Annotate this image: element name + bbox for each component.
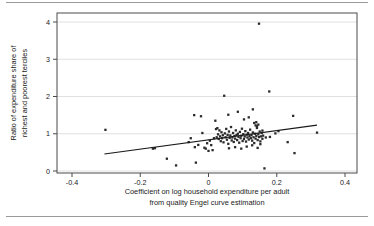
- data-point: [232, 132, 234, 134]
- data-point: [234, 137, 236, 139]
- data-point: [233, 141, 235, 143]
- data-point: [244, 135, 246, 137]
- data-point: [226, 139, 228, 141]
- data-point: [226, 134, 228, 136]
- data-point: [205, 148, 207, 150]
- data-point: [228, 147, 230, 149]
- figure-container: -0.4-0.200.20.4 01234 Coefficient on log…: [0, 0, 374, 226]
- data-point: [250, 137, 252, 139]
- data-point: [316, 131, 318, 133]
- regression-line: [104, 125, 317, 154]
- data-point: [238, 142, 240, 144]
- data-point: [220, 131, 222, 133]
- data-point: [245, 140, 247, 142]
- data-point: [252, 108, 254, 110]
- data-point: [258, 136, 260, 138]
- data-point: [193, 114, 195, 116]
- data-point: [219, 135, 221, 137]
- y-axis-label: Ratio of expenditure share ofrichest and…: [9, 45, 29, 141]
- data-point: [217, 133, 219, 135]
- data-point: [200, 115, 202, 117]
- data-point: [244, 130, 246, 132]
- plot-frame: [57, 13, 357, 173]
- data-point: [235, 129, 237, 131]
- x-axis-title-line: from quality Engel curve estimation: [149, 198, 264, 207]
- data-point: [252, 136, 254, 138]
- data-point: [255, 121, 257, 123]
- data-point: [251, 144, 253, 146]
- data-point: [197, 144, 199, 146]
- data-point: [222, 134, 224, 136]
- data-point: [223, 95, 225, 97]
- data-point: [104, 129, 106, 131]
- gridlines: [57, 22, 357, 171]
- data-point: [237, 111, 239, 113]
- data-point: [243, 118, 245, 120]
- data-point: [214, 120, 216, 122]
- data-point: [265, 136, 267, 138]
- data-point: [225, 128, 227, 130]
- data-point: [253, 122, 255, 124]
- data-point: [211, 149, 213, 151]
- data-point: [227, 143, 229, 145]
- data-point: [256, 139, 258, 141]
- x-axis-ticks: -0.4-0.200.20.4: [66, 173, 350, 187]
- data-point: [228, 130, 230, 132]
- data-point: [269, 136, 271, 138]
- data-point: [222, 141, 224, 143]
- data-point: [190, 137, 192, 139]
- fit-line: [104, 125, 317, 154]
- data-point: [259, 143, 261, 145]
- data-point: [220, 140, 222, 142]
- x-axis-label: Coefficient on log household expenditure…: [125, 187, 290, 207]
- data-points: [104, 23, 318, 170]
- data-point: [206, 142, 208, 144]
- data-point: [256, 147, 258, 149]
- data-point: [175, 164, 177, 166]
- data-point: [274, 132, 276, 134]
- data-point: [210, 144, 212, 146]
- x-tick-label: 0.2: [272, 178, 282, 187]
- data-point: [240, 148, 242, 150]
- data-point: [224, 132, 226, 134]
- data-point: [231, 139, 233, 141]
- data-point: [237, 133, 239, 135]
- data-point: [257, 123, 259, 125]
- data-point: [254, 124, 256, 126]
- data-point: [254, 137, 256, 139]
- data-point: [248, 116, 250, 118]
- y-axis-title-line: richest and poorest terciles: [20, 49, 29, 138]
- data-point: [194, 146, 196, 148]
- data-point: [241, 140, 243, 142]
- x-axis-title-line: Coefficient on log household expenditure…: [125, 187, 290, 196]
- y-tick-label: 4: [46, 18, 50, 27]
- data-point: [248, 135, 250, 137]
- data-point: [258, 23, 260, 25]
- data-point: [241, 128, 243, 130]
- data-point: [236, 139, 238, 141]
- data-point: [216, 136, 218, 138]
- data-point: [207, 150, 209, 152]
- data-point: [247, 132, 249, 134]
- x-tick-label: 0.4: [340, 178, 350, 187]
- data-point: [262, 134, 264, 136]
- data-point: [166, 158, 168, 160]
- x-tick-label: -0.4: [66, 178, 78, 187]
- data-point: [248, 138, 250, 140]
- data-point: [201, 132, 203, 134]
- data-point: [218, 129, 220, 131]
- data-point: [216, 127, 218, 129]
- data-point: [293, 152, 295, 154]
- data-point: [249, 129, 251, 131]
- data-point: [246, 145, 248, 147]
- data-point: [251, 139, 253, 141]
- data-point: [256, 127, 258, 129]
- data-point: [292, 115, 294, 117]
- y-axis-title-line: Ratio of expenditure share of: [9, 45, 18, 141]
- x-tick-label: 0: [207, 178, 211, 187]
- data-point: [227, 114, 229, 116]
- plot-frame-rect: [57, 13, 357, 173]
- data-point: [243, 138, 245, 140]
- data-point: [234, 146, 236, 148]
- y-axis-ticks: 01234: [46, 18, 57, 176]
